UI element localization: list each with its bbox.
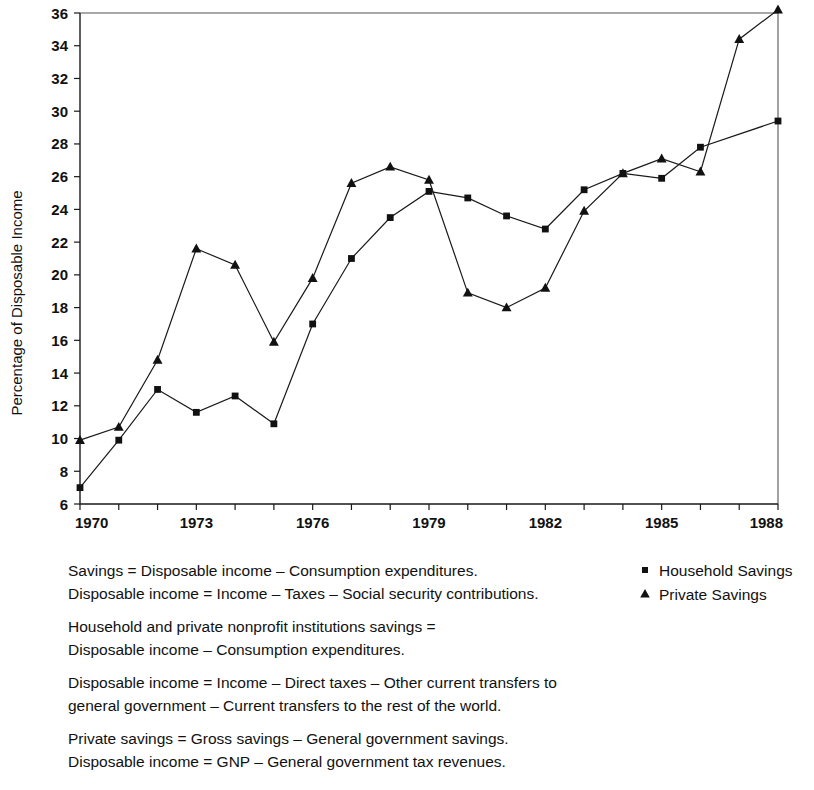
- x-tick-label: 1985: [645, 514, 678, 531]
- y-tick-label: 18: [51, 299, 68, 316]
- legend-item: Household Savings: [642, 562, 793, 579]
- data-point-square: [464, 195, 471, 202]
- figure-background: [0, 0, 814, 790]
- note-line: Disposable income = Income – Taxes – Soc…: [68, 585, 539, 602]
- note-line: Savings = Disposable income – Consumptio…: [68, 562, 478, 579]
- y-tick-label: 20: [51, 266, 68, 283]
- y-tick-label: 34: [51, 37, 68, 54]
- note-line: general government – Current transfers t…: [68, 697, 501, 714]
- legend-item-label: Private Savings: [659, 586, 767, 603]
- y-tick-label: 32: [51, 70, 68, 87]
- legend-marker-square: [642, 567, 648, 573]
- legend-item: Private Savings: [640, 586, 767, 603]
- x-tick-label: 1988: [750, 514, 783, 531]
- data-point-square: [426, 188, 433, 195]
- data-point-square: [77, 484, 84, 491]
- note-line: Household and private nonprofit institut…: [68, 618, 436, 635]
- y-tick-label: 16: [51, 332, 68, 349]
- x-tick-label: 1982: [529, 514, 562, 531]
- chart-canvas: Percentage of Disposable Income 68101214…: [0, 0, 814, 790]
- data-point-square: [309, 321, 316, 328]
- y-tick-label: 12: [51, 397, 68, 414]
- data-point-square: [270, 420, 277, 427]
- data-point-square: [154, 386, 161, 393]
- data-point-square: [542, 226, 549, 233]
- savings-chart-figure: Percentage of Disposable Income 68101214…: [0, 0, 814, 790]
- x-tick-label: 1970: [75, 514, 108, 531]
- y-tick-label: 26: [51, 168, 68, 185]
- y-tick-label: 6: [60, 496, 68, 513]
- note-line: Private savings = Gross savings – Genera…: [68, 730, 509, 747]
- data-point-square: [387, 214, 394, 221]
- x-tick-label: 1979: [412, 514, 445, 531]
- data-point-square: [232, 393, 239, 400]
- y-tick-label: 28: [51, 135, 68, 152]
- data-point-square: [775, 118, 782, 125]
- data-point-square: [115, 437, 122, 444]
- y-tick-label: 30: [51, 103, 68, 120]
- y-axis-title: Percentage of Disposable Income: [8, 190, 25, 415]
- y-tick-label: 8: [60, 463, 68, 480]
- x-tick-label: 1973: [180, 514, 213, 531]
- y-tick-label: 10: [51, 430, 68, 447]
- note-line: Disposable income = GNP – General govern…: [68, 753, 506, 770]
- y-tick-label: 24: [51, 201, 68, 218]
- data-point-square: [348, 255, 355, 262]
- y-axis-title-label: Percentage of Disposable Income: [8, 190, 25, 415]
- data-point-square: [581, 186, 588, 193]
- note-line: Disposable income = Income – Direct taxe…: [68, 674, 557, 691]
- data-point-square: [503, 213, 510, 220]
- y-tick-label: 14: [51, 365, 68, 382]
- data-point-square: [697, 144, 704, 151]
- x-tick-label: 1976: [296, 514, 329, 531]
- y-tick-label: 36: [51, 5, 68, 22]
- data-point-square: [658, 175, 665, 182]
- note-line: Disposable income – Consumption expendit…: [68, 641, 405, 658]
- data-point-square: [193, 409, 200, 416]
- legend-item-label: Household Savings: [659, 562, 793, 579]
- y-tick-label: 22: [51, 234, 68, 251]
